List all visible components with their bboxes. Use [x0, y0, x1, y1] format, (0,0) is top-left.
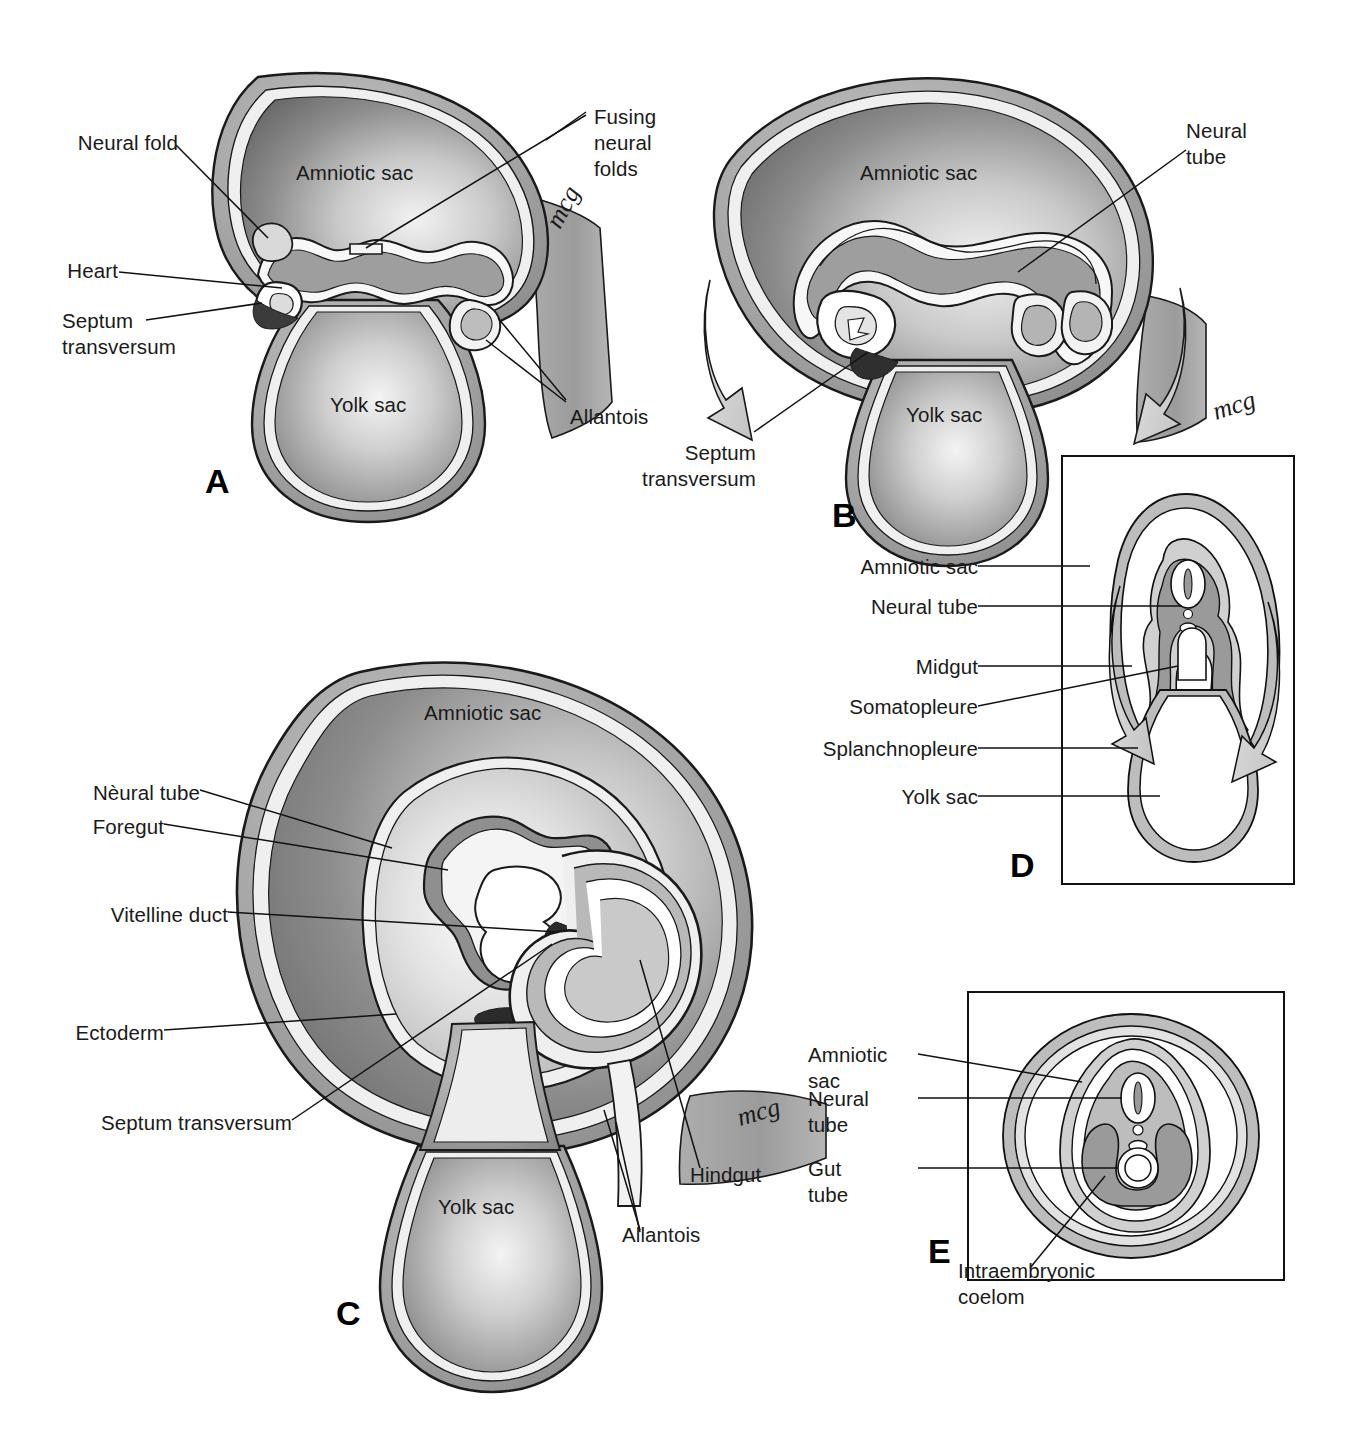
yolk-sac-cavity-b: [869, 372, 1027, 546]
label-fusing-neural-folds-line1: Fusing: [594, 104, 656, 129]
panel-d-illustration: [1062, 456, 1294, 884]
label-allantois-a: Allantois: [570, 404, 648, 429]
yolk-sac-cavity-c: [403, 1158, 581, 1372]
panel-letter-b: B: [832, 496, 857, 535]
label-splanchnopleure-d: Splanchnopleure: [782, 736, 978, 761]
gut-tube-lumen-e: [1125, 1155, 1151, 1181]
label-yolk-sac-c: Yolk sac: [438, 1194, 514, 1219]
label-amniotic-sac-e-line1: Amniotic: [808, 1042, 887, 1067]
label-septum-b-line2: transversum: [620, 466, 756, 491]
neural-tube-lumen-d: [1184, 569, 1192, 599]
label-amniotic-sac-b: Amniotic sac: [860, 160, 977, 185]
label-neural-tube-b-line2: tube: [1186, 144, 1226, 169]
label-neural-tube-b-line1: Neural: [1186, 118, 1247, 143]
yolk-sac-inner-d: [1140, 696, 1248, 850]
label-midgut-d: Midgut: [796, 654, 978, 679]
panel-letter-c: C: [336, 1294, 361, 1333]
label-yolk-sac-a: Yolk sac: [330, 392, 406, 417]
label-neural-fold-a: Neural fold: [28, 130, 178, 155]
panel-c-illustration: mcg: [237, 662, 826, 1392]
panel-letter-e: E: [928, 1232, 951, 1271]
panel-a-illustration: mcg: [212, 73, 612, 522]
hindgut-lumen-b: [1022, 305, 1057, 345]
embryology-illustration: mcg: [0, 0, 1356, 1433]
label-neural-tube-e-line2: tube: [808, 1112, 848, 1137]
label-yolk-sac-b: Yolk sac: [906, 402, 982, 427]
panel-e-illustration: [968, 992, 1284, 1280]
notochord-e: [1133, 1125, 1143, 1135]
label-gut-tube-e-line1: Gut: [808, 1156, 841, 1181]
label-vitelline-duct-c: Vitelline duct: [24, 902, 228, 927]
label-amniotic-sac-c: Amniotic sac: [424, 700, 541, 725]
label-heart-a: Heart: [28, 258, 118, 283]
label-allantois-c: Allantois: [622, 1222, 700, 1247]
label-ectoderm-c: Ectoderm: [24, 1020, 164, 1045]
label-septum-transversum-c: Septum transversum: [24, 1110, 292, 1135]
label-hindgut-c: Hindgut: [690, 1162, 761, 1187]
label-septum-a-line1: Septum: [62, 308, 133, 333]
panel-b-illustration: mcg: [704, 78, 1259, 566]
label-septum-a-line2: transversum: [62, 334, 176, 359]
label-foregut-c: Foregut: [24, 814, 164, 839]
allantois-lumen-a: [461, 309, 492, 340]
neural-tube-lumen-e: [1134, 1082, 1142, 1114]
label-fusing-neural-folds-line2: neural: [594, 130, 652, 155]
label-fusing-neural-folds-line3: folds: [594, 156, 638, 181]
label-yolk-sac-d: Yolk sac: [796, 784, 978, 809]
fusing-neural-folds-a: [350, 244, 382, 254]
label-amniotic-sac-d: Amniotic sac: [796, 554, 978, 579]
label-intraembryonic-coelom-line1: Intraembryonic: [958, 1258, 1095, 1283]
panel-letter-a: A: [205, 462, 230, 501]
allantois-lumen-b: [1070, 302, 1102, 342]
label-amniotic-sac-a: Amniotic sac: [296, 160, 413, 185]
artist-signature-b: mcg: [1209, 385, 1259, 426]
label-neural-tube-e-line1: Neural: [808, 1086, 869, 1111]
label-intraembryonic-coelom-line2: coelom: [958, 1284, 1025, 1309]
notochord-d: [1184, 610, 1193, 619]
label-neural-tube-c: Nèural tube: [24, 780, 200, 805]
figure-canvas: mcg: [0, 0, 1356, 1433]
label-septum-b-line1: Septum: [620, 440, 756, 465]
panel-letter-d: D: [1010, 846, 1035, 885]
label-somatopleure-d: Somatopleure: [796, 694, 978, 719]
label-neural-tube-d: Neural tube: [796, 594, 978, 619]
label-gut-tube-e-line2: tube: [808, 1182, 848, 1207]
embryo-mesoderm-a: [268, 250, 504, 297]
midgut-d: [1178, 628, 1206, 680]
